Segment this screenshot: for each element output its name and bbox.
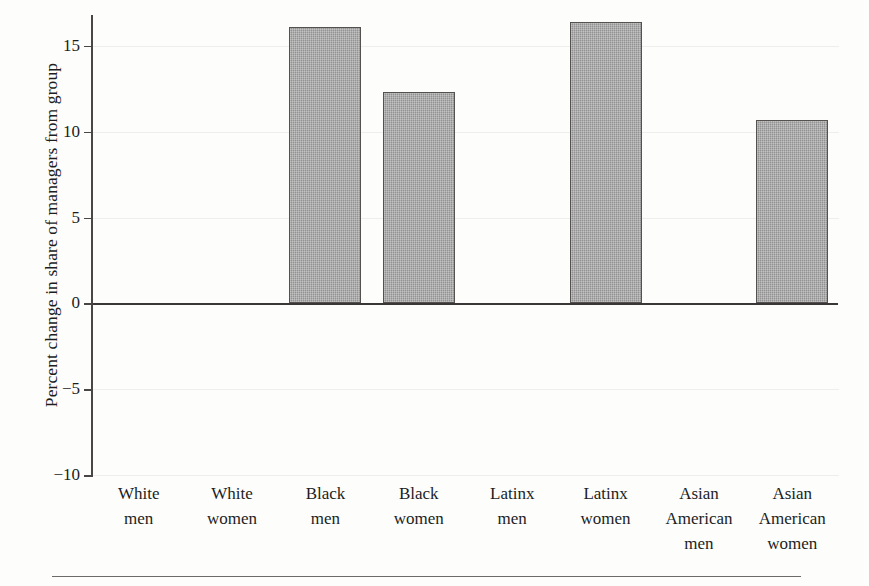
- x-axis-label-line: women: [182, 506, 281, 531]
- gridline: [92, 475, 839, 476]
- x-axis-label-line: Black: [276, 481, 375, 506]
- y-axis-tick-label: −5: [34, 379, 80, 399]
- x-axis-label-line: White: [182, 481, 281, 506]
- y-axis-tick: [84, 303, 93, 305]
- x-axis-category-label: Blackmen: [276, 481, 375, 531]
- x-axis-label-line: women: [743, 531, 842, 556]
- bar: [570, 22, 642, 304]
- x-axis-label-line: women: [556, 506, 655, 531]
- y-axis-tick-label: 0: [34, 293, 80, 313]
- x-axis-category-label: AsianAmericanmen: [649, 481, 748, 556]
- x-axis-label-line: American: [743, 506, 842, 531]
- plot-area: [92, 15, 839, 475]
- bar: [383, 92, 455, 303]
- x-axis-category-label: AsianAmericanwomen: [743, 481, 842, 556]
- y-axis-tick-label: 15: [34, 36, 80, 56]
- y-axis-tick: [84, 46, 93, 48]
- x-axis-label-line: men: [276, 506, 375, 531]
- x-axis-category-label: Blackwomen: [369, 481, 468, 531]
- y-axis-tick-label: 10: [34, 122, 80, 142]
- x-axis-label-line: women: [369, 506, 468, 531]
- bar-chart-figure: Percent change in share of managers from…: [0, 0, 869, 586]
- x-axis-label-line: American: [649, 506, 748, 531]
- x-axis-category-label: Whitewomen: [182, 481, 281, 531]
- bar: [289, 27, 361, 303]
- bottom-divider-rule: [52, 576, 801, 577]
- zero-baseline: [92, 303, 838, 305]
- gridline: [92, 46, 839, 47]
- gridline: [92, 132, 839, 133]
- x-axis-label-line: Asian: [649, 481, 748, 506]
- x-axis-label-line: men: [89, 506, 188, 531]
- y-axis-tick: [84, 132, 93, 134]
- x-axis-category-label: Latinxwomen: [556, 481, 655, 531]
- x-axis-label-line: Latinx: [463, 481, 562, 506]
- y-axis-tick: [84, 389, 93, 391]
- y-axis-tick: [84, 218, 93, 220]
- x-axis-label-line: Asian: [743, 481, 842, 506]
- bar: [756, 120, 828, 304]
- gridline: [92, 218, 839, 219]
- x-axis-category-labels: WhitemenWhitewomenBlackmenBlackwomenLati…: [92, 481, 839, 573]
- x-axis-category-label: Latinxmen: [463, 481, 562, 531]
- x-axis-label-line: men: [649, 531, 748, 556]
- x-axis-category-label: Whitemen: [89, 481, 188, 531]
- x-axis-label-line: White: [89, 481, 188, 506]
- y-axis-tick-labels: 151050−5−10: [0, 0, 80, 586]
- gridline: [92, 389, 839, 390]
- x-axis-label-line: Black: [369, 481, 468, 506]
- y-axis-tick-label: −10: [34, 465, 80, 485]
- y-axis-tick: [84, 475, 93, 477]
- x-axis-label-line: Latinx: [556, 481, 655, 506]
- x-axis-label-line: men: [463, 506, 562, 531]
- y-axis-tick-label: 5: [34, 208, 80, 228]
